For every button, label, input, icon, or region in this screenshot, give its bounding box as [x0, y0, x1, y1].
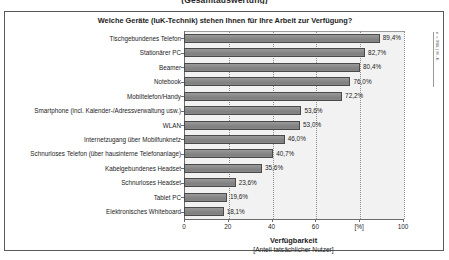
x-axis-tick-label: 60: [295, 223, 335, 230]
y-axis-tick: [181, 183, 184, 184]
bar-row: 89,4%: [184, 34, 403, 43]
category-label: Tablet PC: [8, 193, 184, 202]
x-axis-caption-main: Verfügbarkeit: [184, 236, 403, 245]
category-label: Internetzugang über Mobilfunknetz: [8, 135, 184, 144]
x-axis-tick-label: [%]: [339, 223, 379, 230]
y-axis-tick: [181, 96, 184, 97]
bar-row: 46,0%: [184, 135, 403, 144]
side-note-rule: [433, 32, 434, 87]
sample-size-note: n = 986 | H.-K.: [435, 32, 440, 62]
bar[interactable]: [184, 92, 342, 101]
y-axis-tick: [181, 154, 184, 155]
x-axis-tick: [359, 219, 360, 222]
category-label: Tischgebundenes Telefon: [8, 34, 184, 43]
bar-value-label: 23,6%: [239, 178, 257, 187]
bar-value-label: 82,7%: [368, 48, 386, 57]
y-axis-tick: [181, 212, 184, 213]
bar-value-label: 40,7%: [276, 149, 294, 158]
x-axis-tick: [403, 219, 404, 222]
category-label: WLAN: [8, 121, 184, 130]
category-label: Smartphone (incl. Kalender-/Adressverwal…: [8, 106, 184, 115]
category-label: Elektronisches Whiteboard: [8, 207, 184, 216]
bar-value-label: 80,4%: [363, 62, 381, 71]
x-axis-tick-label: 100: [383, 223, 423, 230]
y-axis-tick: [181, 82, 184, 83]
bar-row: 72,2%: [184, 92, 403, 101]
category-label: Beamer: [8, 63, 184, 72]
bar-row: 23,6%: [184, 178, 403, 187]
plot-top-border: [185, 31, 404, 32]
x-axis-tick-label: 0: [164, 223, 204, 230]
y-axis-tick: [181, 197, 184, 198]
x-axis-tick: [315, 219, 316, 222]
bar-row: 80,4%: [184, 63, 403, 72]
bar-value-label: 72,2%: [345, 91, 363, 100]
x-axis-tick-label: 40: [252, 223, 292, 230]
bar-row: 18,1%: [184, 207, 403, 216]
y-axis-tick: [181, 67, 184, 68]
y-axis-tick: [181, 168, 184, 169]
cut-off-page-heading: (Gesamtauswertung): [0, 0, 449, 4]
bar-value-label: 53,0%: [303, 120, 321, 129]
bar[interactable]: [184, 77, 350, 86]
bar-value-label: 19,6%: [230, 192, 248, 201]
category-label: Mobiltelefon/Handy: [8, 92, 184, 101]
y-axis-tick: [181, 38, 184, 39]
x-axis-tick: [272, 219, 273, 222]
bar-value-label: 46,0%: [288, 134, 306, 143]
category-label: Schnurloses Headset: [8, 178, 184, 187]
bar-value-label: 18,1%: [227, 207, 245, 216]
x-axis-caption: Verfügbarkeit [Anteil tatsächlicher Nutz…: [184, 236, 403, 253]
bar-row: 40,7%: [184, 149, 403, 158]
bar-row: 53,6%: [184, 106, 403, 115]
gridline: [404, 31, 405, 219]
bar-row: 76,0%: [184, 77, 403, 86]
category-label: Kabelgebundenes Headset: [8, 164, 184, 173]
bar[interactable]: [184, 164, 262, 173]
bar[interactable]: [184, 34, 380, 43]
x-axis-tick: [228, 219, 229, 222]
bar[interactable]: [184, 48, 365, 57]
y-axis-tick: [181, 139, 184, 140]
bar[interactable]: [184, 207, 224, 216]
x-axis-tick: [184, 219, 185, 222]
bar[interactable]: [184, 178, 236, 187]
y-axis-tick: [181, 53, 184, 54]
bar-value-label: 35,6%: [265, 163, 283, 172]
bar[interactable]: [184, 121, 300, 130]
bar-row: 82,7%: [184, 48, 403, 57]
bar[interactable]: [184, 135, 285, 144]
bar-row: 19,6%: [184, 193, 403, 202]
chart-frame: Welche Geräte (IuK-Technik) stehen Ihnen…: [4, 11, 444, 251]
bar[interactable]: [184, 106, 301, 115]
y-axis-tick: [181, 111, 184, 112]
category-label: Notebook: [8, 77, 184, 86]
y-axis-tick: [181, 125, 184, 126]
bar-row: 35,6%: [184, 164, 403, 173]
bar-value-label: 89,4%: [383, 33, 401, 42]
bar-row: 53,0%: [184, 121, 403, 130]
chart-title: Welche Geräte (IuK-Technik) stehen Ihnen…: [5, 16, 445, 25]
x-axis-caption-sub: [Anteil tatsächlicher Nutzer]: [184, 246, 403, 253]
bar-value-label: 53,6%: [304, 106, 322, 115]
bar-value-label: 76,0%: [353, 77, 371, 86]
bar[interactable]: [184, 149, 273, 158]
category-label: Stationärer PC: [8, 48, 184, 57]
x-axis-tick-label: 20: [208, 223, 248, 230]
bar[interactable]: [184, 193, 227, 202]
category-label: Schnurloses Telefon (über hausinterne Te…: [8, 149, 184, 158]
bar[interactable]: [184, 63, 360, 72]
